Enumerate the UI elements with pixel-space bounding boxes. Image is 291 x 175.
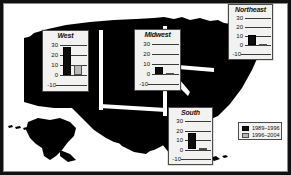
panel-south-title: South xyxy=(169,109,212,117)
ytick-20: 20 xyxy=(45,52,58,58)
bar-midwest-1996-2004 xyxy=(166,73,174,75)
legend: 1989–1996 1996–2004 xyxy=(238,122,282,140)
panel-midwest: Midwest 30 20 10 0 -10 xyxy=(134,29,181,91)
panel-northeast-title: Northeast xyxy=(229,6,272,14)
ytick-10: 10 xyxy=(171,137,183,143)
bar-south-1989-1996 xyxy=(188,133,196,149)
gridline-30 xyxy=(185,121,211,122)
ytick-30: 30 xyxy=(137,41,150,47)
gray-square-swatch xyxy=(242,133,249,138)
panel-midwest-title: Midwest xyxy=(135,31,180,39)
legend-label-1989-1996: 1989–1996 xyxy=(252,125,280,131)
ytick-0: 0 xyxy=(171,147,183,153)
ytick-neg10: -10 xyxy=(43,82,56,88)
ytick-10: 10 xyxy=(137,61,150,67)
panel-northeast: Northeast 30 20 10 0 -10 xyxy=(228,4,273,60)
ytick-0: 0 xyxy=(137,71,150,77)
bar-south-1996-2004 xyxy=(199,148,207,150)
ytick-10: 10 xyxy=(231,33,243,39)
bar-west-1996-2004 xyxy=(74,65,82,75)
ytick-20: 20 xyxy=(231,24,243,30)
panel-west: West 30 20 10 0 -10 xyxy=(42,30,89,92)
gridline-neg10 xyxy=(56,85,87,86)
ytick-0: 0 xyxy=(45,72,58,78)
black-square-swatch xyxy=(242,126,249,131)
panel-south: South 30 20 10 0 -10 xyxy=(168,107,213,165)
legend-item-1989-1996: 1989–1996 xyxy=(242,125,278,131)
legend-label-1996-2004: 1996–2004 xyxy=(252,132,280,138)
gridline-0 xyxy=(185,150,211,151)
gridline-20 xyxy=(185,131,211,132)
gridline-0 xyxy=(245,45,271,46)
ytick-20: 20 xyxy=(171,128,183,134)
bar-west-1989-1996 xyxy=(63,47,71,76)
bar-midwest-1989-1996 xyxy=(155,67,163,74)
ytick-neg10: -10 xyxy=(229,51,241,57)
gridline-20 xyxy=(152,54,179,55)
ytick-neg10: -10 xyxy=(135,81,148,87)
gridline-neg10 xyxy=(148,84,179,85)
bar-northeast-1989-1996 xyxy=(248,35,256,45)
gridline-30 xyxy=(245,18,271,19)
gridline-10 xyxy=(152,64,179,65)
gridline-neg10 xyxy=(241,54,271,55)
figure-container: West 30 20 10 0 -10 Midwest 30 20 10 0 -… xyxy=(0,0,291,175)
legend-item-1996-2004: 1996–2004 xyxy=(242,132,278,138)
gridline-30 xyxy=(152,44,179,45)
ytick-0: 0 xyxy=(231,42,243,48)
ytick-10: 10 xyxy=(45,62,58,68)
gridline-20 xyxy=(245,27,271,28)
ytick-20: 20 xyxy=(137,51,150,57)
bar-northeast-1996-2004 xyxy=(259,44,267,46)
ytick-30: 30 xyxy=(45,42,58,48)
gridline-neg10 xyxy=(181,159,211,160)
ytick-30: 30 xyxy=(171,118,183,124)
ytick-neg10: -10 xyxy=(169,156,181,162)
gridline-0 xyxy=(60,75,87,76)
panel-west-title: West xyxy=(43,32,88,40)
ytick-30: 30 xyxy=(231,15,243,21)
